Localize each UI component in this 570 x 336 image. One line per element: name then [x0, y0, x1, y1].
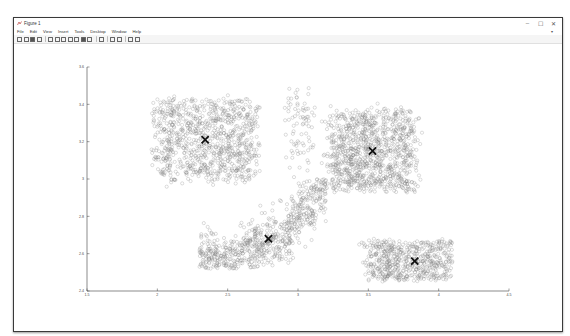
hide-plot-tools-icon[interactable]	[128, 37, 133, 42]
tick-label: 3.2	[79, 140, 84, 144]
link-plot-icon[interactable]	[99, 37, 104, 42]
menu-edit[interactable]: Edit	[30, 29, 37, 34]
figure-canvas[interactable]: 1.522.533.544.52.42.62.833.23.43.6	[14, 44, 562, 331]
figure-toolbar	[14, 35, 562, 44]
open-file-icon[interactable]	[24, 37, 29, 42]
toolbar-separator	[96, 36, 97, 42]
close-button[interactable]: ✕	[547, 20, 560, 27]
print-icon[interactable]	[37, 37, 42, 42]
tick-label: 3.4	[79, 103, 84, 107]
tick-label: 1.5	[85, 293, 90, 297]
brush-icon[interactable]	[87, 37, 92, 42]
pan-icon[interactable]	[68, 37, 73, 42]
zoom-in-icon[interactable]	[55, 37, 60, 42]
toolbar-separator	[45, 36, 46, 42]
minimize-button[interactable]: –	[521, 20, 534, 26]
tick-label: 4	[438, 293, 440, 297]
data-cursor-icon[interactable]	[81, 37, 86, 42]
tick-label: 2.4	[79, 289, 84, 293]
new-figure-icon[interactable]	[17, 37, 22, 42]
save-icon[interactable]	[30, 37, 35, 42]
tick-label: 3	[297, 293, 299, 297]
menu-bar: File Edit View Insert Tools Desktop Wind…	[14, 28, 562, 35]
window-title: Figure 1	[24, 21, 41, 26]
rotate-3d-icon[interactable]	[74, 37, 79, 42]
title-bar[interactable]: Figure 1 – ☐ ✕	[14, 18, 562, 28]
maximize-button[interactable]: ☐	[534, 20, 547, 27]
matlab-figure-icon	[17, 21, 22, 26]
colorbar-icon[interactable]	[110, 37, 115, 42]
tick-label: 2.5	[225, 293, 230, 297]
figure-window: Figure 1 – ☐ ✕ File Edit View Insert Too…	[13, 17, 563, 332]
toolbar-separator	[107, 36, 108, 42]
menu-file[interactable]: File	[17, 29, 24, 34]
zoom-out-icon[interactable]	[61, 37, 66, 42]
edit-plot-icon[interactable]	[48, 37, 53, 42]
menu-tools[interactable]: Tools	[74, 29, 84, 34]
dock-arrow-icon[interactable]: ▾	[551, 29, 553, 34]
tick-label: 2	[156, 293, 158, 297]
menu-insert[interactable]: Insert	[58, 29, 68, 34]
tick-label: 2.6	[79, 252, 84, 256]
tick-label: 4.5	[507, 293, 512, 297]
tick-label: 3.5	[366, 293, 371, 297]
tick-label: 3.6	[79, 65, 84, 69]
menu-help[interactable]: Help	[133, 29, 142, 34]
menu-window[interactable]: Window	[112, 29, 127, 34]
menu-desktop[interactable]: Desktop	[90, 29, 105, 34]
tick-label: 3	[82, 177, 84, 181]
axes: 1.522.533.544.52.42.62.833.23.43.6	[79, 65, 512, 297]
tick-label: 2.8	[79, 215, 84, 219]
toolbar-separator	[125, 36, 126, 42]
scatter-plot[interactable]: 1.522.533.544.52.42.62.833.23.43.6	[14, 44, 562, 332]
menu-view[interactable]: View	[43, 29, 52, 34]
data-points	[150, 87, 454, 284]
legend-icon[interactable]	[117, 37, 122, 42]
show-plot-tools-icon[interactable]	[135, 37, 140, 42]
